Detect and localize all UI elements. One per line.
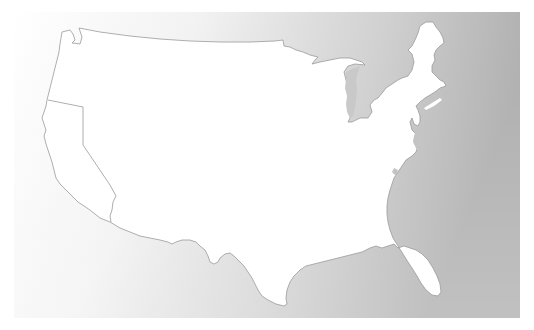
map-container <box>0 0 534 330</box>
us-map-svg <box>0 0 534 330</box>
